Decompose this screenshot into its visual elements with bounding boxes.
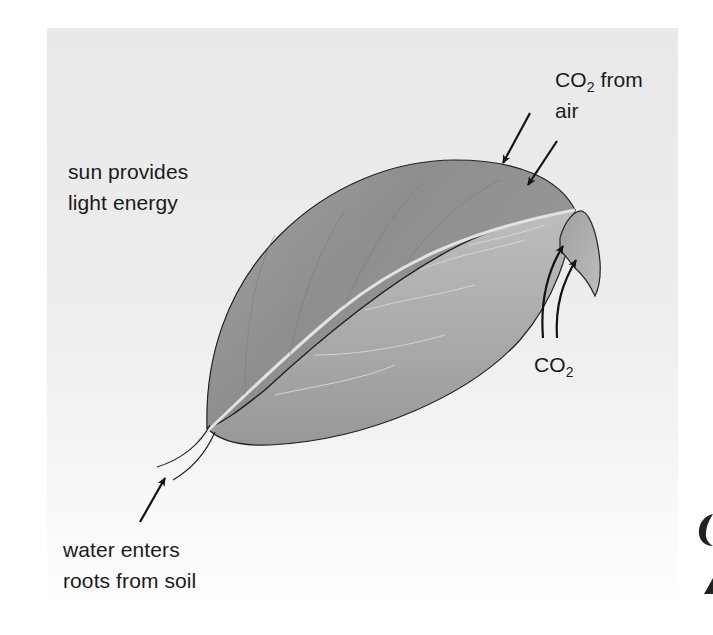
co2-air-prefix: CO	[555, 68, 587, 91]
co2-air-arrow-1	[503, 113, 530, 163]
co2-under-subscript: 2	[566, 364, 574, 380]
leaf-stem-right	[173, 432, 215, 480]
label-co2-from-air: CO2 from air	[555, 64, 643, 126]
label-co2-underside: CO2	[534, 349, 574, 380]
co2-air-line2: air	[555, 95, 643, 126]
label-water-line2: roots from soil	[63, 565, 196, 596]
label-water-line1: water enters	[63, 534, 196, 565]
cropped-edge-glyph-icon	[696, 510, 713, 600]
label-sun-provides-light: sun provides light energy	[68, 156, 188, 218]
label-sun-line2: light energy	[68, 187, 188, 218]
co2-air-subscript: 2	[587, 79, 595, 95]
co2-under-prefix: CO	[534, 353, 566, 376]
co2-air-suffix: from	[595, 68, 643, 91]
leaf-stem-left	[157, 425, 210, 467]
label-water-enters-roots: water enters roots from soil	[63, 534, 196, 596]
leaf-curled-tip	[560, 211, 600, 296]
label-sun-line1: sun provides	[68, 156, 188, 187]
water-arrow	[140, 478, 165, 522]
